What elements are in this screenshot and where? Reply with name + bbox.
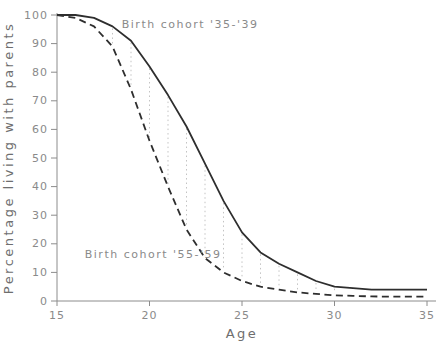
- annotation-cohort-1: Birth cohort '55-'59: [85, 248, 222, 261]
- y-tick-label: 80: [32, 66, 48, 79]
- x-tick-label: 25: [234, 309, 250, 322]
- y-axis-title: Percentage living with parents: [1, 22, 16, 295]
- y-tick-label: 100: [24, 9, 48, 22]
- y-tick-label: 70: [32, 94, 48, 107]
- y-tick-label: 10: [32, 266, 48, 279]
- y-tick-label: 30: [32, 209, 48, 222]
- y-tick-label: 50: [32, 152, 48, 165]
- y-tick-label: 60: [32, 123, 48, 136]
- y-tick-label: 40: [32, 180, 48, 193]
- x-tick-label: 30: [327, 309, 343, 322]
- annotation-cohort-0: Birth cohort '35-'39: [122, 18, 259, 31]
- x-tick-label: 15: [49, 309, 65, 322]
- y-tick-label: 0: [40, 295, 48, 308]
- x-tick-label: 35: [419, 309, 435, 322]
- y-tick-label: 20: [32, 237, 48, 250]
- y-tick-label: 90: [32, 37, 48, 50]
- x-tick-label: 20: [142, 309, 158, 322]
- chart-svg: 15202530350102030405060708090100 Percent…: [0, 0, 438, 351]
- line-chart: 15202530350102030405060708090100 Percent…: [0, 0, 438, 351]
- x-axis-title: Age: [226, 326, 259, 341]
